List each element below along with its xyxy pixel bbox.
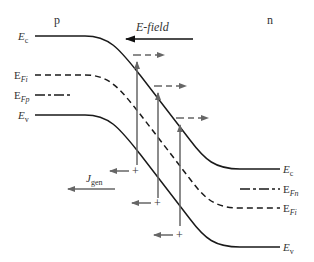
label-efi-left: EFi [14, 69, 28, 84]
band-diagram: p n E-field Ec EFi EFp Ev Ec EFn EFi Ev … [0, 0, 314, 262]
label-efi-right: EFi [283, 202, 297, 217]
label-ec-left: Ec [17, 30, 29, 45]
label-ev-left: Ev [17, 109, 29, 124]
p-region-label: p [54, 13, 60, 27]
generation-pair-2: + [132, 86, 186, 210]
hole-symbol: + [176, 228, 183, 242]
label-ev-right: Ev [282, 241, 294, 256]
left-level-labels: Ec EFi EFp Ev [14, 30, 30, 124]
generation-pair-3: + [154, 118, 208, 242]
hole-symbol: + [154, 196, 161, 210]
label-efn: EFn [283, 183, 299, 198]
efield-label: E-field [135, 20, 170, 34]
jgen-label: Jgen [86, 172, 102, 187]
label-ec-right: Ec [282, 163, 294, 178]
right-level-labels: Ec EFn EFi Ev [282, 163, 299, 256]
generation-pair-1: + [110, 55, 164, 178]
label-efp: EFp [14, 89, 30, 104]
n-region-label: n [267, 13, 273, 27]
hole-symbol: + [132, 164, 139, 178]
